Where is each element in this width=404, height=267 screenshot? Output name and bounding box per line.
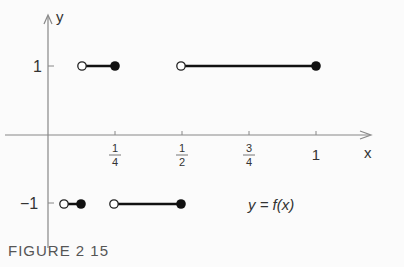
segment-2: [177, 61, 321, 71]
open-point: [110, 200, 118, 208]
svg-text:3: 3: [246, 142, 252, 154]
step-function-plot: y x 1 −1 1 4 1 2 3 4 1 y = f(x): [0, 0, 404, 267]
svg-text:2: 2: [179, 156, 185, 168]
closed-point: [311, 61, 321, 71]
svg-text:1: 1: [112, 142, 118, 154]
x-tick-label-quarter: 1 4: [109, 142, 121, 168]
y-tick-label-1: 1: [33, 58, 42, 75]
figure-caption: FIGURE 2 15: [8, 242, 109, 259]
x-tick-label-one: 1: [312, 146, 320, 163]
x-tick-label-half: 1 2: [176, 142, 188, 168]
segment-1: [78, 61, 120, 71]
x-tick-label-three-quarter: 3 4: [243, 142, 255, 168]
open-point: [60, 200, 68, 208]
function-annotation: y = f(x): [247, 196, 294, 213]
segment-3: [60, 199, 86, 209]
closed-point: [76, 199, 86, 209]
y-axis-label: y: [56, 8, 64, 25]
y-tick-label-neg1: −1: [20, 195, 38, 212]
open-point: [78, 62, 86, 70]
svg-text:4: 4: [112, 156, 118, 168]
open-point: [177, 62, 185, 70]
svg-text:4: 4: [246, 156, 252, 168]
x-axis-label: x: [364, 144, 372, 161]
closed-point: [110, 61, 120, 71]
svg-text:1: 1: [179, 142, 185, 154]
closed-point: [176, 199, 186, 209]
segment-4: [110, 199, 186, 209]
